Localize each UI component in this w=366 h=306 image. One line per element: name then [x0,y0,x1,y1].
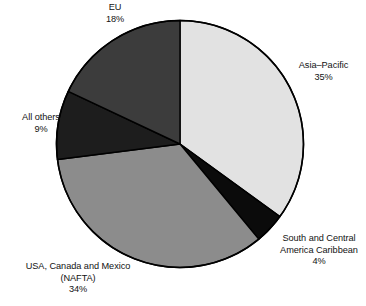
pie-label-all-others-value: 9% [2,124,80,136]
pie-label-all-others-name: All others [2,112,80,124]
pie-label-asia-pacific-value: 35% [281,72,366,84]
pie-slice-group [56,20,303,267]
pie-chart: EU 18% Asia–Pacific 35% South and Centra… [0,0,366,306]
pie-label-nafta-name-line2: (NAFTA) [4,273,152,285]
pie-label-eu: EU 18% [62,2,168,25]
pie-label-all-others: All others 9% [2,112,80,135]
pie-label-eu-value: 18% [62,14,168,26]
pie-label-nafta-name-line1: USA, Canada and Mexico [4,261,152,273]
pie-label-asia-pacific-name: Asia–Pacific [281,60,366,72]
pie-label-asia-pacific: Asia–Pacific 35% [281,60,366,83]
pie-label-south-central-america-name-line1: South and Central [272,233,366,245]
pie-label-south-central-america-name-line2: America Caribbean [272,245,366,257]
pie-label-nafta: USA, Canada and Mexico (NAFTA) 34% [4,261,152,296]
pie-label-eu-name: EU [62,2,168,14]
pie-label-nafta-value: 34% [4,284,152,296]
pie-label-south-central-america-value: 4% [272,256,366,268]
pie-label-south-central-america: South and Central America Caribbean 4% [272,233,366,268]
